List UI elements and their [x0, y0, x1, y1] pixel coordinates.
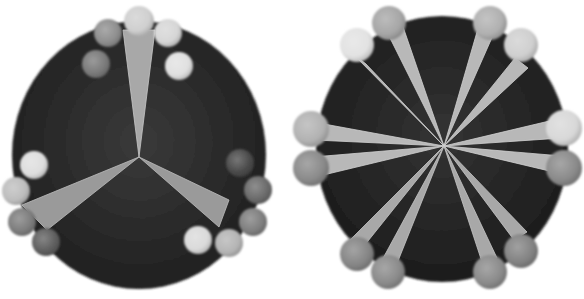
sphere-ball [82, 50, 110, 78]
sphere-ball [124, 6, 154, 36]
left-panel-three-wedge-diagram [2, 6, 272, 289]
sphere-ball [20, 151, 48, 179]
right-panel-twelve-spoke-diagram [293, 6, 582, 289]
sphere-ball [371, 255, 405, 289]
sphere-ball [473, 6, 507, 40]
sphere-ball [293, 150, 329, 186]
sphere-ball [226, 149, 254, 177]
sphere-ball [2, 177, 30, 205]
sphere-ball [546, 110, 582, 146]
sphere-ball [340, 28, 374, 62]
figure [0, 0, 584, 299]
sphere-ball [8, 208, 36, 236]
sphere-ball [239, 208, 267, 236]
sphere-ball [244, 176, 272, 204]
sphere-ball [184, 226, 212, 254]
sphere-ball [473, 255, 507, 289]
sphere-ball [504, 28, 538, 62]
sphere-ball [340, 237, 374, 271]
sphere-ball [293, 111, 329, 147]
sphere-ball [32, 228, 60, 256]
sphere-ball [215, 229, 243, 257]
sphere-ball [94, 19, 122, 47]
diagram-canvas [0, 0, 584, 299]
sphere-ball [154, 19, 182, 47]
sphere-ball [165, 52, 193, 80]
sphere-ball [372, 6, 406, 40]
sphere-ball [546, 150, 582, 186]
sphere-ball [504, 234, 538, 268]
